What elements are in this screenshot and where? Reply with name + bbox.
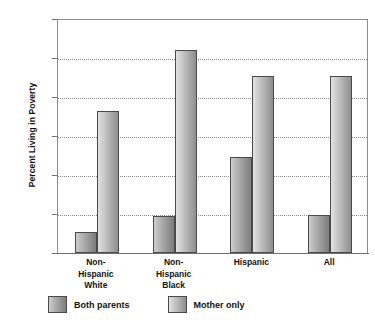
x-axis-label-line: White xyxy=(57,280,135,292)
legend-label: Mother only xyxy=(194,300,245,310)
x-axis-label-line: Non- xyxy=(135,257,213,269)
x-axis-line xyxy=(57,253,369,254)
plot-area xyxy=(57,19,368,253)
legend-label: Both parents xyxy=(74,300,130,310)
y-tick-mark xyxy=(52,253,57,254)
legend-item[interactable]: Both parents xyxy=(48,296,130,313)
x-axis-label-line: Hispanic xyxy=(135,269,213,281)
x-axis-label: Non-HispanicBlack xyxy=(135,257,213,292)
x-axis-label: Hispanic xyxy=(213,257,291,269)
x-axis-labels: Non-HispanicWhiteNon-HispanicBlackHispan… xyxy=(57,257,368,299)
x-axis-label-line: Hispanic xyxy=(213,257,291,269)
legend-swatch-icon xyxy=(48,296,67,313)
bar xyxy=(330,76,352,253)
legend-item[interactable]: Mother only xyxy=(168,296,245,313)
y-axis-title: Percent Living in Poverty xyxy=(27,45,37,225)
x-axis-label-line: All xyxy=(290,257,368,269)
bar xyxy=(75,232,97,253)
x-axis-label-line: Black xyxy=(135,280,213,292)
legend-swatch-icon xyxy=(168,296,187,313)
chart-legend: Both parentsMother only xyxy=(48,296,283,313)
bar xyxy=(252,76,274,253)
bar xyxy=(175,50,197,253)
x-axis-label-line: Hispanic xyxy=(57,269,135,281)
bar xyxy=(153,216,175,253)
x-axis-label: Non-HispanicWhite xyxy=(57,257,135,292)
bar-series-container xyxy=(58,20,367,253)
bar xyxy=(308,215,330,253)
bar xyxy=(230,157,252,253)
x-axis-label: All xyxy=(290,257,368,269)
x-axis-label-line: Non- xyxy=(57,257,135,269)
bar xyxy=(97,111,119,253)
bar-chart: Percent Living in Poverty 0102030405060 … xyxy=(0,0,375,322)
